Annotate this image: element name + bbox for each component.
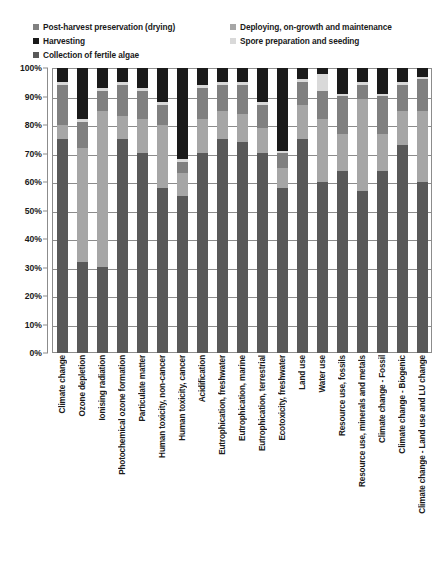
bar-segment	[397, 111, 408, 145]
legend-label: Spore preparation and seeding	[240, 36, 359, 46]
bar-segment	[97, 267, 108, 353]
bar-segment	[237, 142, 248, 353]
stacked-bar	[157, 68, 168, 353]
bar-segment	[217, 139, 228, 353]
x-axis-tick-label-text: Eutrophication, freshwater	[217, 355, 228, 455]
bar-segment	[297, 105, 308, 139]
bar-segment	[337, 171, 348, 353]
bar-segment	[237, 85, 248, 114]
y-axis-tick-label: 20%	[25, 291, 42, 301]
bar-segment	[217, 68, 228, 82]
bar-segment	[157, 188, 168, 353]
stacked-bar	[197, 68, 208, 353]
bar-segment	[57, 85, 68, 125]
bar-segment	[417, 111, 428, 182]
chart-legend: Post-harvest preservation (drying) Harve…	[33, 20, 433, 62]
bar-segment	[157, 68, 168, 102]
bar-segment	[77, 68, 88, 119]
legend-item-post-harvest-preservation: Post-harvest preservation (drying)	[33, 20, 230, 33]
y-axis-tick-label: 100%	[20, 63, 42, 73]
x-axis-tick-label-text: Particulate matter	[137, 355, 148, 421]
x-axis-tick-label: Land use	[297, 355, 308, 390]
bar-segment	[317, 91, 328, 120]
y-axis-tick-mark	[43, 210, 48, 211]
x-axis-labels: Climate changeOzone depletionIonising ra…	[52, 355, 432, 560]
stacked-bar	[417, 68, 428, 353]
bar-segment	[77, 122, 88, 148]
bar-segment	[217, 111, 228, 140]
x-axis-tick-label: Eutrophication, terrestrial	[257, 355, 268, 451]
x-axis-tick-label-text: Climate change	[57, 355, 68, 413]
y-axis-tick-mark	[43, 68, 48, 69]
bar-segment	[277, 168, 288, 188]
stacked-bar	[257, 68, 268, 353]
x-axis-tick-label: Ozone depletion	[77, 355, 88, 416]
y-axis-tick-mark	[43, 153, 48, 154]
y-axis: 100%90%80%70%60%50%40%30%20%10%0%	[0, 68, 48, 353]
bar-segment	[297, 139, 308, 353]
bar-segment	[337, 96, 348, 133]
x-axis-tick-label-text: Ecotoxicity, freshwater	[277, 355, 288, 441]
x-axis-tick-label-text: Resource use, minerals and metals	[357, 355, 368, 487]
x-axis-tick-label: Climate change	[57, 355, 68, 413]
y-axis-tick-label: 70%	[25, 149, 42, 159]
x-axis-tick-label-text: Acidification	[197, 355, 208, 402]
bar-segment	[197, 153, 208, 353]
x-axis-tick-label-text: Eutrophication, terrestrial	[257, 355, 268, 451]
stacked-bar	[277, 68, 288, 353]
y-axis-tick-label: 10%	[25, 320, 42, 330]
bar-segment	[237, 68, 248, 82]
stacked-bar	[357, 68, 368, 353]
bar-segment	[337, 68, 348, 94]
bar-segment	[317, 182, 328, 353]
x-axis-tick-label: Climate change - Land use and LU change	[417, 355, 428, 514]
bar-segment	[177, 196, 188, 353]
legend-label: Deploying, on-growth and maintenance	[240, 22, 392, 32]
bar-segment	[57, 125, 68, 139]
legend-column-left: Post-harvest preservation (drying) Harve…	[33, 20, 230, 62]
stacked-bar	[117, 68, 128, 353]
bar-segment	[377, 68, 388, 94]
x-axis-tick-label-text: Resource use, fossils	[337, 355, 348, 436]
x-axis-tick-label: Eutrophication, freshwater	[217, 355, 228, 455]
stacked-bar	[217, 68, 228, 353]
x-axis-tick-label-text: Climate change - Fossil	[377, 355, 388, 443]
y-axis-tick-mark	[43, 239, 48, 240]
bar-segment	[257, 105, 268, 128]
bar-segment	[297, 68, 308, 79]
x-axis-tick-label: Resource use, minerals and metals	[357, 355, 368, 487]
y-axis-tick-label: 60%	[25, 177, 42, 187]
bar-segment	[417, 68, 428, 77]
x-axis-tick-label: Ecotoxicity, freshwater	[277, 355, 288, 441]
x-axis-tick-label: Particulate matter	[137, 355, 148, 421]
x-axis-tick-label-text: Human toxicity, non-cancer	[157, 355, 168, 458]
bar-series-container	[52, 68, 432, 353]
bar-segment	[277, 68, 288, 151]
y-axis-tick-mark	[43, 296, 48, 297]
legend-label: Harvesting	[43, 36, 85, 46]
legend-label: Post-harvest preservation (drying)	[43, 22, 175, 32]
bar-segment	[377, 96, 388, 133]
bar-segment	[117, 116, 128, 139]
stacked-bar	[297, 68, 308, 353]
y-axis-tick-mark	[43, 96, 48, 97]
bar-segment	[237, 114, 248, 143]
bar-segment	[137, 91, 148, 120]
legend-item-collection-of-fertile-algae: Collection of fertile algae	[33, 48, 230, 61]
bar-segment	[397, 85, 408, 111]
x-axis-tick-label: Climate change - Biogenic	[397, 355, 408, 454]
bar-segment	[257, 153, 268, 353]
legend-label: Collection of fertile algae	[43, 50, 139, 60]
bar-segment	[77, 148, 88, 262]
legend-swatch-icon	[33, 38, 39, 44]
y-axis-tick-mark	[43, 125, 48, 126]
bar-segment	[177, 173, 188, 196]
bar-segment	[217, 85, 228, 111]
bar-segment	[157, 125, 168, 188]
bar-segment	[117, 85, 128, 116]
bar-segment	[397, 68, 408, 82]
bar-segment	[257, 128, 268, 154]
stacked-bar	[97, 68, 108, 353]
bar-segment	[357, 68, 368, 82]
x-axis-tick-label-text: Eutrophication, marine	[237, 355, 248, 441]
